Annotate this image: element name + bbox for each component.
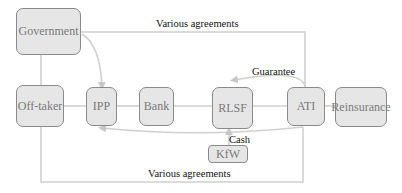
node-label: RLSF	[218, 101, 247, 116]
node-label: Reinsurance	[331, 100, 390, 115]
node-label: ATI	[297, 99, 316, 114]
node-kfw: KfW	[208, 145, 248, 163]
node-rlsf: RLSF	[212, 87, 253, 129]
node-label: Government	[19, 24, 79, 39]
ati-ipp-arrow	[102, 127, 303, 133]
node-ipp: IPP	[86, 87, 117, 126]
node-government: Government	[16, 8, 81, 55]
node-offtaker: Off-taker	[16, 85, 64, 127]
node-ati: ATI	[287, 87, 325, 126]
gov-ipp-arrow	[82, 34, 102, 86]
node-reinsurance: Reinsurance	[335, 87, 387, 127]
node-bank: Bank	[139, 87, 174, 126]
bottom-agreements-label: Various agreements	[148, 168, 231, 179]
top-agreements-line	[81, 32, 305, 87]
cash-label: Cash	[229, 134, 250, 145]
guarantee-label: Guarantee	[252, 66, 295, 77]
top-agreements-label: Various agreements	[156, 18, 239, 29]
node-label: KfW	[216, 147, 240, 162]
diagram-canvas: Government Off-taker IPP Bank RLSF ATI R…	[0, 0, 402, 193]
node-label: IPP	[93, 99, 110, 114]
node-label: Bank	[144, 99, 169, 114]
node-label: Off-taker	[18, 99, 62, 114]
